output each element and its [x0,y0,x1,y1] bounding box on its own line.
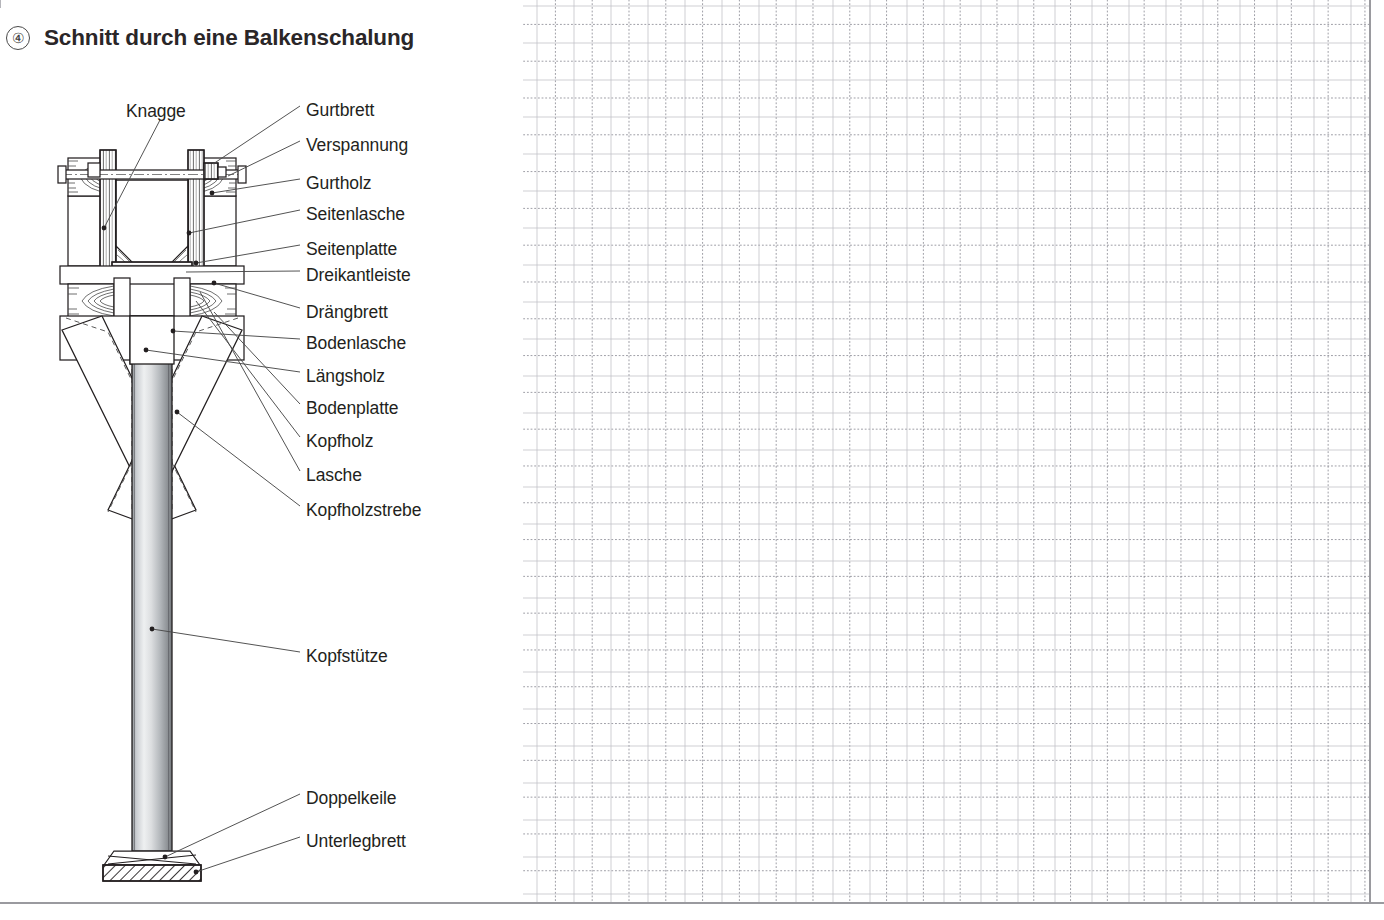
label-gurtbrett: Gurtbrett [306,102,374,120]
beam-formwork-drawing [0,0,523,920]
gurtbrett-lower-right [174,278,190,318]
knagge-block-left [88,163,100,177]
frame-left-edge [0,0,1,8]
unterlegbrett [103,865,201,881]
label-bodenlasche: Bodenlasche [306,335,406,353]
label-gurtholz: Gurtholz [306,175,371,193]
draengbrett [60,266,244,284]
frame-right-edge [1369,0,1371,903]
leader-kopfstuetze [152,629,300,652]
label-bodenplatte: Bodenplatte [306,400,398,418]
kopfholz-right [190,284,236,318]
label-laengsholz: Längsholz [306,368,385,386]
gurtbrett-lower-left [114,278,130,318]
leader-doppelkeile [165,794,300,857]
label-kopfstuetze: Kopfstütze [306,648,388,666]
label-seitenlasche: Seitenlasche [306,206,405,224]
frame-bottom-edge [0,902,1384,904]
leader-unterlegbrett [196,837,300,872]
prop-head-collar [130,316,174,364]
doppelkeile [104,851,200,865]
label-lasche: Lasche [306,467,362,485]
worksheet-grid-panel [523,0,1370,903]
gurtbrett-right [188,150,204,270]
label-unterlegbrett: Unterlegbrett [306,833,406,851]
leader-kopfholzstrebe [177,412,300,506]
leader-gurtbrett [213,106,300,164]
figure-page: ④ Schnitt durch eine Balkenschalung [0,0,1384,920]
label-draengbrett: Drängbrett [306,304,388,322]
label-kopfholz: Kopfholz [306,433,373,451]
label-doppelkeile: Doppelkeile [306,790,396,808]
label-seitenplatte: Seitenplatte [306,241,397,259]
beam-cavity [116,180,188,264]
grid-major-rules [523,0,1370,903]
label-knagge: Knagge [126,103,186,121]
kopfstuetze-prop [132,352,172,851]
label-kopfholzstrebe: Kopfholzstrebe [306,502,421,520]
kopfholz-left [68,284,114,318]
label-verspannung: Verspannung [306,137,408,155]
label-dreikantleiste: Dreikantleiste [306,267,411,285]
